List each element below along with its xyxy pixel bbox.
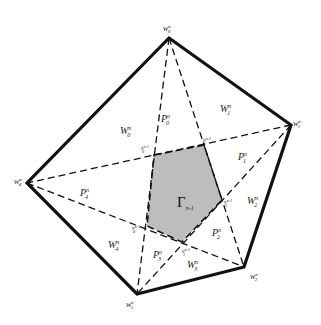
label-w2: wn2 [250,272,258,282]
label-w3: wn3 [126,300,134,310]
label-w0: wn0 [163,24,171,34]
label-v3: vn-13 [182,247,190,257]
label-W0: Wn0 [120,125,131,138]
label-W3: Wn3 [187,259,198,272]
label-W4: Wn4 [108,239,119,252]
label-w4: wn4 [14,177,22,187]
label-P4: Pn4 [79,187,89,200]
label-W2: Wn2 [247,195,258,208]
label-P3: Pn3 [152,249,162,262]
label-v1: vn-11 [203,136,211,146]
label-v4: vn-14 [132,224,140,234]
label-P0: Pn0 [160,113,170,126]
label-P2: Pn2 [211,227,221,240]
diagram-svg: wn0 wn1 wn2 wn3 wn4 vn-10 vn-11 vn-12 vn… [0,0,321,325]
label-P1: Pn1 [237,151,247,164]
label-v0: vn-10 [141,144,149,154]
label-W1: Wn1 [220,103,231,116]
label-v2: vn-12 [224,198,232,208]
label-w1: wn1 [293,119,301,129]
pentagon-nested-diagram: wn0 wn1 wn2 wn3 wn4 vn-10 vn-11 vn-12 vn… [0,0,321,325]
